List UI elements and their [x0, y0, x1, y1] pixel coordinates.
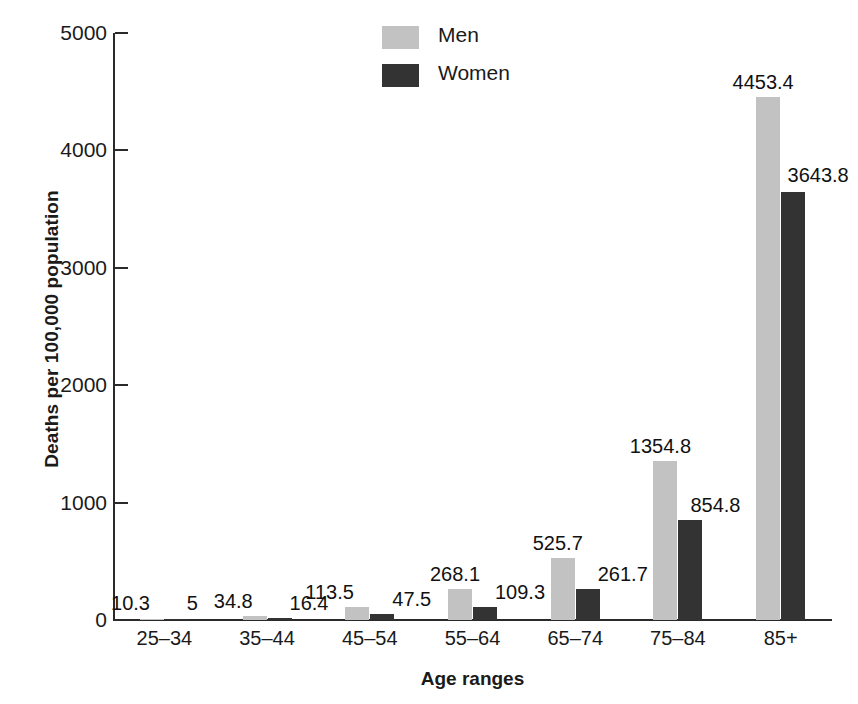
bar-women-25-34	[165, 619, 189, 621]
bar-value-label: 109.3	[495, 582, 545, 602]
bar-value-label: 1354.8	[630, 436, 691, 456]
bar-men-65-74	[551, 558, 575, 620]
bar-value-label: 47.5	[392, 589, 431, 609]
x-axis-label-85+: 85+	[721, 627, 841, 650]
y-axis-tick-label: 0	[11, 609, 107, 630]
bar-women-75-84	[678, 520, 702, 620]
bar-men-35-44	[243, 616, 267, 620]
bar-men-75-84	[653, 461, 677, 620]
bar-men-25-34	[140, 619, 164, 621]
bar-men-45-54	[345, 607, 369, 620]
bar-women-45-54	[370, 614, 394, 620]
y-axis-title: Deaths per 100,000 population	[41, 49, 63, 609]
bar-women-55-64	[473, 607, 497, 620]
bar-chart: Deaths per 100,000 population 0100020003…	[0, 0, 858, 704]
bar-value-label: 34.8	[214, 591, 253, 611]
bar-value-label: 10.3	[111, 593, 150, 613]
y-axis-tick-label: 4000	[11, 139, 107, 160]
bar-women-65-74	[576, 589, 600, 620]
legend-swatch-men	[382, 26, 419, 49]
bar-value-label: 5	[187, 593, 198, 613]
bar-value-label: 268.1	[430, 564, 480, 584]
bar-value-label: 261.7	[598, 564, 648, 584]
y-axis-tick-label: 2000	[11, 374, 107, 395]
legend-label-women: Women	[438, 61, 510, 85]
bar-men-85+	[756, 97, 780, 620]
bar-value-label: 4453.4	[733, 72, 794, 92]
bar-value-label: 113.5	[305, 582, 354, 602]
bar-women-85+	[781, 192, 805, 620]
plot-area: 10.3534.816.4113.547.5268.1109.3525.7261…	[113, 33, 832, 620]
legend-label-men: Men	[438, 23, 479, 47]
bar-women-35-44	[268, 618, 292, 620]
bar-value-label: 525.7	[533, 533, 583, 553]
bar-men-55-64	[448, 589, 472, 620]
y-axis-tick-label: 5000	[11, 22, 107, 43]
y-axis-tick-label: 1000	[11, 492, 107, 513]
bar-value-label: 854.8	[690, 495, 740, 515]
x-axis-title: Age ranges	[113, 668, 832, 690]
y-axis-tick-label: 3000	[11, 257, 107, 278]
legend-swatch-women	[382, 64, 419, 87]
bar-value-label: 3643.8	[788, 165, 849, 185]
